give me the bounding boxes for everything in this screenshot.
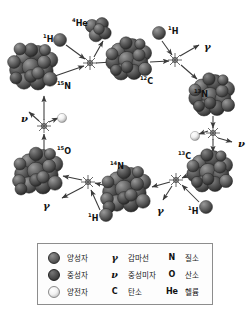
- proton-sphere-icon: [45, 252, 62, 264]
- legend-label-oxygen: 산소: [180, 269, 199, 280]
- positrons-group: [57, 113, 199, 140]
- label-h1-topright: 1H: [168, 28, 178, 36]
- arrow-node-bottomleft-to-gamma: [62, 187, 83, 198]
- nucleus-c12: [106, 37, 152, 80]
- cno-cycle-canvas: [0, 0, 251, 240]
- legend-row: 양성자 γ 감마선 N 질소: [45, 249, 206, 266]
- legend-label-neutron: 중성자: [62, 269, 88, 280]
- arrow-node-left-to-nu: [29, 112, 39, 121]
- nuclei-group: [8, 18, 235, 213]
- proton-h1-bottomright: [200, 201, 213, 214]
- neutron-sphere-icon: [45, 269, 62, 281]
- legend-box: 양성자 γ 감마선 N 질소 중성자 ν 중성미자 O 산소: [37, 243, 213, 305]
- legend-entry-positron: 양전자: [45, 286, 106, 298]
- nucleus-o15: [13, 147, 63, 195]
- legend-label-gamma: 감마선: [123, 252, 149, 263]
- arrow-h1-to-node-topright: [162, 41, 172, 55]
- label-c13: 13C: [178, 153, 191, 161]
- legend-label-nitrogen: 질소: [180, 252, 199, 263]
- label-he4: 4He: [72, 20, 88, 28]
- label-n15-left: 15N: [57, 83, 71, 91]
- label-h1-topleft: 1H: [43, 36, 53, 44]
- arrow-node-right-to-nu: [218, 138, 232, 142]
- label-nu-left: ν: [21, 114, 28, 124]
- arrow-n15-to-node-topleft: [55, 66, 84, 76]
- arrow-node-topright-to-gamma: [180, 45, 199, 56]
- positron-right: [190, 131, 199, 140]
- label-n14: 14N: [110, 163, 124, 171]
- cno-cycle-figure: 15N 4He 12C 13N 13C 14N 15O 1H 1H 1H 1H …: [0, 0, 251, 321]
- nucleus-he4: [85, 18, 111, 42]
- helium-symbol-icon: He: [163, 287, 180, 296]
- arrow-node-bottomright-to-n14: [152, 182, 170, 187]
- arrow-node-topright-to-n13: [181, 65, 197, 79]
- arrow-node-bottomleft-to-o15: [63, 176, 82, 180]
- legend-label-positron: 양전자: [62, 286, 88, 297]
- arrow-node-left-to-positron: [49, 118, 58, 122]
- legend-entry-gamma: γ 감마선: [106, 252, 163, 263]
- label-gamma-bottom-right: γ: [157, 206, 164, 216]
- label-gamma-bottom-left: γ: [43, 201, 50, 211]
- proton-h1-topright: [153, 27, 166, 40]
- label-gamma-top-right: γ: [204, 42, 211, 52]
- label-o15: 15O: [57, 148, 71, 156]
- carbon-symbol-icon: C: [106, 287, 123, 296]
- reaction-node-bottom-left: [81, 175, 95, 189]
- legend-label-proton: 양성자: [62, 252, 88, 263]
- legend-label-helium: 헬륨: [180, 286, 199, 297]
- legend-entry-carbon: C 탄소: [106, 286, 163, 297]
- legend-row: 양전자 C 탄소 He 헬륨: [45, 283, 206, 300]
- label-n13: 13N: [194, 91, 208, 99]
- arrow-node-topleft-to-he4: [94, 41, 103, 57]
- legend-label-neutrino: 중성미자: [123, 269, 156, 280]
- arrow-c12-to-node-topright: [150, 61, 169, 62]
- positron-sphere-icon: [45, 286, 62, 298]
- reaction-node-top-right: [168, 53, 182, 67]
- nucleus-c13: [187, 149, 233, 192]
- legend-entry-proton: 양성자: [45, 252, 106, 264]
- legend-entry-neutron: 중성자: [45, 269, 106, 281]
- reaction-node-bottom-right: [169, 173, 183, 187]
- reaction-node-right-decay: [206, 126, 220, 140]
- legend-entry-helium: He 헬륨: [163, 286, 206, 297]
- arrow-node-bottomright-to-gamma: [163, 186, 172, 200]
- gamma-symbol-icon: γ: [106, 252, 123, 263]
- label-c12: 12C: [140, 78, 153, 86]
- legend-entry-nitrogen: N 질소: [163, 252, 206, 263]
- label-h1-bottomright: 1H: [188, 208, 198, 216]
- nu-symbol-icon: ν: [106, 269, 123, 280]
- nucleus-n14: [101, 165, 151, 213]
- legend-entry-neutrino: ν 중성미자: [106, 269, 163, 280]
- oxygen-symbol-icon: O: [163, 270, 180, 279]
- legend-row: 중성자 ν 중성미자 O 산소: [45, 266, 206, 283]
- positron-left: [57, 113, 66, 122]
- arrow-h1-to-node-bottomleft: [91, 190, 100, 210]
- nitrogen-symbol-icon: N: [163, 253, 180, 262]
- reaction-node-top-left: [83, 56, 97, 70]
- reaction-node-left-decay: [37, 119, 51, 133]
- label-h1-bottomleft: 1H: [88, 215, 98, 223]
- label-nu-right: ν: [238, 139, 245, 149]
- proton-h1-bottomleft: [100, 209, 113, 222]
- legend-label-carbon: 탄소: [123, 286, 142, 297]
- arrow-h1-to-node-topleft: [66, 45, 85, 59]
- arrow-node-right-to-positron: [199, 131, 208, 134]
- legend-entry-oxygen: O 산소: [163, 269, 206, 280]
- proton-h1-topleft: [54, 34, 67, 47]
- nucleus-n15-left: [8, 43, 58, 90]
